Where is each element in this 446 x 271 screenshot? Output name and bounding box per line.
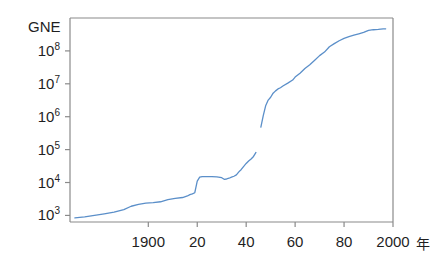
x-axis-tick-label: 80	[336, 233, 353, 250]
chart-background	[0, 0, 446, 271]
x-axis-tick-label: 2000	[376, 233, 409, 250]
x-axis-tick-label: 1900	[132, 233, 165, 250]
gne-log-chart: GNE 103104105106107108 1900204060802000 …	[0, 0, 446, 271]
x-axis-tick-label: 60	[287, 233, 304, 250]
y-axis-title: GNE	[28, 18, 61, 35]
x-axis-unit-label: 年	[416, 236, 430, 252]
chart-canvas: GNE 103104105106107108 1900204060802000 …	[0, 0, 446, 271]
x-axis-tick-label: 20	[189, 233, 206, 250]
x-axis-tick-label: 40	[238, 233, 255, 250]
